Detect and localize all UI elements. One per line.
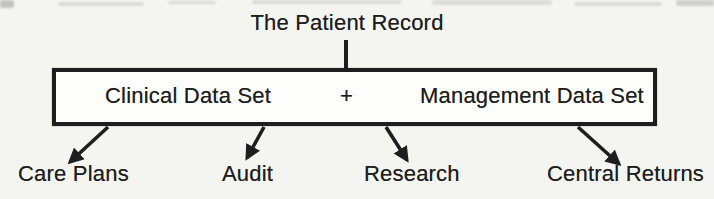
scan-artifact (676, 0, 714, 6)
diagram-title: The Patient Record (0, 11, 694, 35)
scan-artifact (574, 2, 662, 6)
output-label-research: Research (364, 162, 460, 186)
plus-sign: + (340, 84, 353, 108)
arrow-central-returns (578, 127, 619, 164)
patient-record-diagram: The Patient Record Clinical Data Set + M… (0, 0, 714, 199)
output-label-audit: Audit (222, 162, 273, 186)
scan-artifact (252, 0, 402, 4)
scan-artifact (432, 0, 552, 5)
title-connector-line (344, 40, 348, 70)
scan-artifact (0, 0, 14, 8)
arrow-audit (247, 127, 264, 158)
arrow-research (386, 127, 407, 160)
output-label-central-returns: Central Returns (547, 162, 704, 186)
arrow-care-plans (70, 127, 108, 162)
scan-artifact (58, 2, 144, 6)
output-label-care-plans: Care Plans (18, 162, 129, 186)
scan-artifact (168, 1, 216, 4)
clinical-data-set-label: Clinical Data Set (105, 84, 271, 108)
management-data-set-label: Management Data Set (420, 84, 644, 108)
